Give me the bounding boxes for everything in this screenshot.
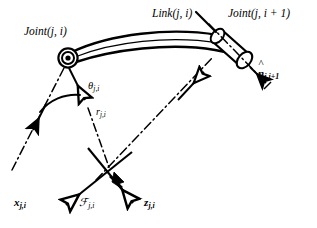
- label-joint-i-plus-1: Joint(j, i + 1): [228, 8, 290, 20]
- label-joint-i: Joint(j, i): [24, 26, 67, 38]
- link-body: [71, 32, 233, 62]
- x-axis-subscript: j,i: [20, 201, 26, 210]
- label-normal-vector: nj,i+1: [258, 68, 279, 79]
- frame-to-distal-axis-line: [96, 58, 212, 180]
- label-z-axis: zj,i: [144, 197, 155, 208]
- label-r-vector: rj,i: [96, 107, 106, 117]
- label-link: Link(j, i): [152, 8, 192, 20]
- pivot-joint-icon: [58, 48, 77, 67]
- label-theta: θj,i: [88, 81, 99, 92]
- kinematic-diagram-figure: Joint(j, i) Link(j, i) Joint(j, i + 1) n…: [0, 0, 317, 228]
- z-axis-subscript: j,i: [148, 201, 154, 210]
- frame-subscript: j,i: [88, 201, 94, 210]
- label-x-axis: xj,i: [14, 197, 26, 208]
- normal-vector-subscript: j,i+1: [264, 72, 279, 81]
- theta-subscript: j,i: [93, 84, 99, 93]
- frame-base: ℱ: [79, 196, 88, 209]
- r-subscript: j,i: [100, 111, 106, 119]
- label-frame: ℱj,i: [79, 197, 94, 208]
- x-axis-base: x: [14, 196, 20, 208]
